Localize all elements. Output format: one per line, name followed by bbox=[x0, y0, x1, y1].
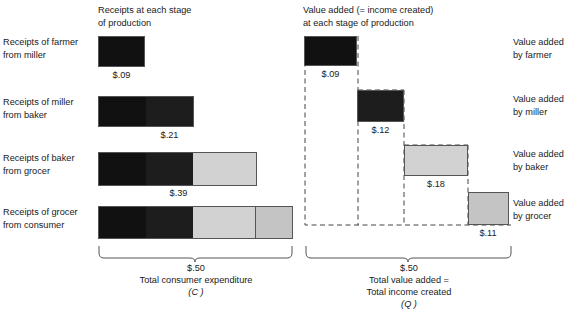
segment-farmer bbox=[99, 207, 146, 238]
left-bar-grocer bbox=[98, 206, 293, 239]
left-bar-value-farmer: $.09 bbox=[98, 70, 145, 81]
segment-baker bbox=[193, 153, 256, 185]
segment-farmer bbox=[99, 97, 146, 126]
left-bar-baker bbox=[98, 152, 257, 186]
left-bar-value-miller: $.21 bbox=[146, 130, 193, 141]
right-row-label-grocer: Value added by grocer bbox=[513, 197, 583, 222]
left-row-label-miller: Receipts of miller from baker bbox=[3, 96, 95, 121]
right-bar-value-farmer: $.09 bbox=[304, 69, 357, 80]
left-bar-farmer bbox=[98, 36, 145, 67]
segment-grocer bbox=[256, 207, 292, 238]
left-brace-total: $.50 bbox=[96, 263, 296, 275]
segment-miller bbox=[146, 153, 193, 185]
left-row-label-farmer: Receipts of farmer from miller bbox=[3, 36, 95, 61]
left-row-label-baker: Receipts of baker from grocer bbox=[3, 152, 95, 177]
right-brace-symbol: (Q ) bbox=[305, 299, 513, 311]
right-row-label-miller: Value added by miller bbox=[513, 93, 583, 118]
left-row-label-grocer: Receipts of grocer from consumer bbox=[3, 206, 95, 231]
right-brace bbox=[305, 245, 513, 263]
right-row-label-farmer: Value added by farmer bbox=[513, 36, 583, 61]
right-brace-caption: Total value added = Total income created bbox=[305, 275, 513, 298]
segment-miller bbox=[146, 97, 193, 126]
right-brace-total: $.50 bbox=[305, 263, 513, 275]
right-bar-value-miller: $.12 bbox=[357, 125, 404, 136]
right-bar-baker bbox=[404, 145, 468, 176]
left-bar-value-baker: $.39 bbox=[155, 188, 202, 199]
right-bar-value-grocer: $.11 bbox=[462, 228, 514, 239]
right-chart-heading: Value added (= income created) at each s… bbox=[303, 4, 513, 29]
left-brace-symbol: (C ) bbox=[96, 287, 296, 299]
left-bar-miller bbox=[98, 96, 194, 127]
segment-farmer bbox=[99, 37, 144, 66]
segment-baker bbox=[193, 207, 256, 238]
right-bar-grocer bbox=[468, 192, 509, 225]
right-bar-value-baker: $.18 bbox=[404, 179, 468, 190]
segment-farmer bbox=[99, 153, 146, 185]
left-brace bbox=[98, 245, 294, 263]
segment-miller bbox=[146, 207, 193, 238]
right-bar-farmer bbox=[304, 36, 357, 66]
left-chart-heading: Receipts at each stage of production bbox=[98, 4, 278, 29]
left-brace-caption: Total consumer expenditure bbox=[96, 275, 296, 287]
figure-canvas: Receipts at each stage of production Val… bbox=[0, 0, 583, 318]
right-bar-miller bbox=[357, 90, 404, 122]
right-row-label-baker: Value added by baker bbox=[513, 148, 583, 173]
